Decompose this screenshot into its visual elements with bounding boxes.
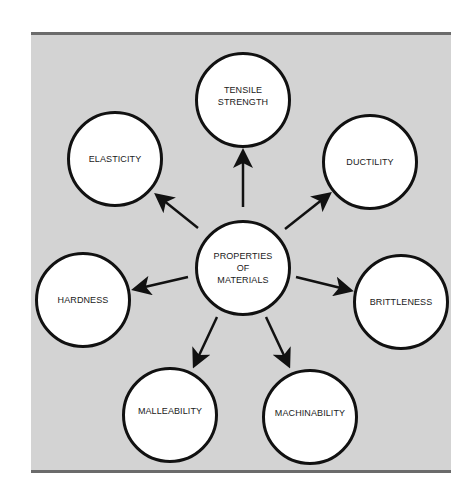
node-label: MACHINABILITY [275,407,345,419]
arrow-to-brittleness [296,277,349,290]
node-hardness: HARDNESS [35,252,131,348]
node-ductility: DUCTILITY [322,114,418,210]
node-label: TENSILE STRENGTH [218,84,268,108]
node-label: BRITTLENESS [370,296,433,308]
arrow-to-malleability [195,317,217,364]
node-label: PROPERTIES OF MATERIALS [214,250,273,286]
node-elasticity: ELASTICITY [67,111,163,207]
arrow-to-machinability [266,317,288,364]
node-label: DUCTILITY [346,156,393,168]
node-label: HARDNESS [58,294,109,306]
node-label: MALLEABILITY [138,405,202,417]
arrow-to-ductility [285,195,328,229]
node-center-properties-of-materials: PROPERTIES OF MATERIALS [195,220,291,316]
node-brittleness: BRITTLENESS [353,254,449,350]
node-machinability: MACHINABILITY [262,369,358,465]
arrow-to-hardness [136,277,188,289]
arrow-to-elasticity [158,196,198,228]
node-tensile-strength: TENSILE STRENGTH [195,52,291,148]
node-malleability: MALLEABILITY [122,367,218,463]
node-label: ELASTICITY [89,153,142,165]
